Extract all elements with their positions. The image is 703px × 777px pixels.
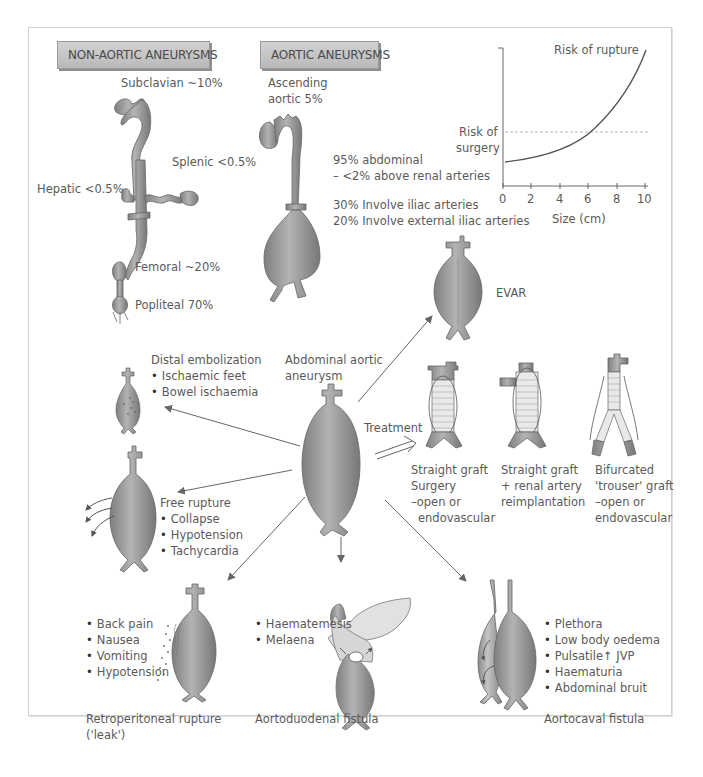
chart-tick-0: 0 [499, 191, 506, 207]
aortocaval-caption: Aortocaval fistula [544, 711, 644, 727]
central-aaa-illustration [302, 384, 360, 536]
list-item: Hypotension [160, 527, 243, 543]
non-aortic-vessel-illustration [113, 99, 199, 324]
list-item: Collapse [160, 511, 243, 527]
retroperitoneal-caption-line1: Retroperitoneal rupture [86, 711, 221, 727]
evar-illustration [434, 236, 482, 340]
chart-surgery-label-line2: surgery [456, 140, 500, 156]
treatment-2-line2: + renal artery [501, 478, 582, 494]
treatment-2-line3: reimplantation [501, 494, 585, 510]
treatment-3-line3: –open or [595, 494, 645, 510]
retroperitoneal-list: Back pain Nausea Vomiting Hypotension [86, 616, 169, 680]
aaa-title-line2: aneurysm [285, 368, 342, 384]
treatment-arrow-line1 [375, 441, 412, 454]
aortoduodenal-caption: Aortoduodenal fistula [255, 711, 378, 727]
list-item: Haematuria [544, 664, 660, 680]
list-item: Bowel ischaemia [151, 384, 258, 400]
chart-y-axis [498, 48, 503, 187]
free-rupture-title: Free rupture [160, 495, 231, 511]
iliac-percent-line1: 30% Involve iliac arteries [333, 197, 478, 213]
list-item: Melaena [255, 632, 352, 648]
chart-tick-6: 6 [584, 191, 591, 207]
list-item: Tachycardia [160, 543, 243, 559]
aortic-aneurysm-illustration [259, 114, 320, 302]
rupture-risk-curve [505, 50, 646, 162]
distal-embolization-illustration [116, 368, 140, 434]
list-item: Haematemesis [255, 616, 352, 632]
chart-x-axis-label: Size (cm) [552, 211, 606, 227]
hepatic-label: Hepatic <0.5% [37, 181, 124, 197]
treatment-arrow-line2 [377, 446, 414, 459]
distal-embolization-list: Ischaemic feet Bowel ischaemia [151, 368, 258, 400]
list-item: Low body oedema [544, 632, 660, 648]
ascending-label-line1: Ascending [268, 75, 328, 91]
list-item: Abdominal bruit [544, 680, 660, 696]
evar-label: EVAR [496, 285, 526, 301]
free-rupture-illustration [86, 446, 156, 572]
abdominal-percent-line2: – <2% above renal arteries [333, 168, 490, 184]
femoral-label: Femoral ~20% [135, 259, 220, 275]
list-item: Ischaemic feet [151, 368, 258, 384]
straight-graft-illustration [426, 362, 462, 448]
retroperitoneal-caption-line2: ('leak') [86, 727, 125, 743]
list-item: Nausea [86, 632, 169, 648]
treatment-1-line3: –open or [411, 494, 461, 510]
treatment-label: Treatment [364, 420, 423, 436]
list-item: Hypotension [86, 664, 169, 680]
ascending-label-line2: aortic 5% [268, 91, 323, 107]
treatment-1-line1: Straight graft [411, 462, 488, 478]
free-rupture-list: Collapse Hypotension Tachycardia [160, 511, 243, 559]
treatment-1-line2: Surgery [411, 478, 456, 494]
chart-tick-8: 8 [613, 191, 620, 207]
treatment-3-line2: 'trouser' graft [595, 478, 674, 494]
iliac-percent-line2: 20% Involve external iliac arteries [333, 213, 529, 229]
list-item: Plethora [544, 616, 660, 632]
aortocaval-list: Plethora Low body oedema Pulsatile↑ JVP … [544, 616, 660, 696]
renal-reimplantation-graft-illustration [500, 363, 546, 448]
chart-tick-10: 10 [637, 191, 652, 207]
treatment-arrowhead [404, 436, 416, 452]
risk-chart [498, 48, 648, 189]
chart-tick-4: 4 [556, 191, 563, 207]
bifurcated-graft-illustration [590, 354, 638, 456]
distal-embolization-title: Distal embolization [151, 352, 262, 368]
chart-tick-2: 2 [527, 191, 534, 207]
abdominal-percent-line1: 95% abdominal [333, 152, 423, 168]
aortocaval-illustration [478, 580, 536, 710]
popliteal-label: Popliteal 70% [135, 297, 213, 313]
aaa-title-line1: Abdominal aortic [285, 352, 383, 368]
list-item: Pulsatile↑ JVP [544, 648, 660, 664]
list-item: Back pain [86, 616, 169, 632]
chart-surgery-label-line1: Risk of [459, 124, 498, 140]
arrow-to-free-rupture [178, 470, 292, 492]
treatment-3-line4: endovascular [595, 510, 672, 526]
splenic-label: Splenic <0.5% [172, 154, 256, 170]
list-item: Vomiting [86, 648, 169, 664]
subclavian-label: Subclavian ~10% [121, 75, 223, 91]
treatment-3-line1: Bifurcated [595, 462, 654, 478]
treatment-2-line1: Straight graft [501, 462, 578, 478]
treatment-1-line4: endovascular [418, 510, 495, 526]
aortoduodenal-list: Haematemesis Melaena [255, 616, 352, 648]
chart-rupture-label: Risk of rupture [554, 42, 639, 58]
arrow-to-distal-embolization [165, 407, 300, 446]
